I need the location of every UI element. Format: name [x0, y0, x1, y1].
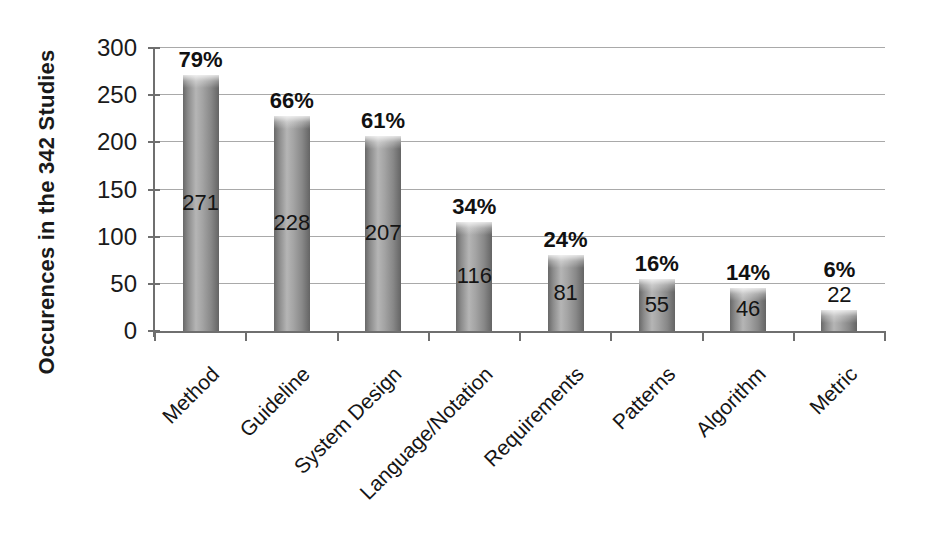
bar-chart-figure: Occurences in the 342 Studies 0501001502… [0, 0, 929, 552]
gridline [155, 47, 885, 48]
y-tick-label: 100 [79, 223, 137, 251]
x-tick-mark [793, 331, 795, 341]
plot-area: 05010015020025030027179%Method22866%Guid… [155, 48, 885, 331]
y-tick-label: 50 [79, 270, 137, 298]
bar-value-label: 46 [703, 296, 793, 322]
y-tick-label: 250 [79, 81, 137, 109]
x-tick-mark [519, 331, 521, 341]
x-tick-mark [610, 331, 612, 341]
x-category-label-text: Patterns [608, 362, 680, 434]
y-tick-mark [148, 236, 160, 238]
bar-percent-label: 79% [156, 47, 246, 72]
bar-value-label: 207 [338, 220, 428, 246]
bar-value-label: 22 [794, 282, 884, 308]
bar-value-label: 55 [612, 292, 702, 318]
y-tick-label: 150 [79, 176, 137, 204]
y-tick-mark [148, 283, 160, 285]
bar-percent-label: 16% [612, 251, 702, 276]
x-tick-mark [702, 331, 704, 341]
bar-value-label: 228 [247, 210, 337, 236]
y-tick-label: 200 [79, 128, 137, 156]
x-tick-mark [154, 331, 156, 341]
bar-percent-label: 61% [338, 108, 428, 133]
y-tick-label: 300 [79, 34, 137, 62]
x-tick-mark [428, 331, 430, 341]
bar-percent-label: 24% [521, 227, 611, 252]
bar-percent-label: 6% [794, 257, 884, 282]
x-category-label-text: Guideline [235, 362, 315, 442]
y-tick-label: 0 [79, 317, 137, 345]
x-tick-mark [884, 331, 886, 341]
gridline [155, 189, 885, 190]
x-category-label-text: Method [157, 362, 224, 429]
bar-percent-label: 66% [247, 88, 337, 113]
y-tick-mark [148, 94, 160, 96]
bar-value-label: 271 [156, 190, 246, 216]
bar-value-label: 116 [429, 263, 519, 289]
x-category-label-text: Algorithm [691, 362, 771, 442]
x-category-label-text: Metric [805, 362, 862, 419]
y-axis-title: Occurences in the 342 Studies [34, 50, 60, 375]
y-tick-mark [148, 141, 160, 143]
bar-percent-label: 34% [429, 194, 519, 219]
x-tick-mark [245, 331, 247, 341]
bar [821, 310, 857, 331]
x-tick-mark [337, 331, 339, 341]
gridline [155, 141, 885, 142]
bar-value-label: 81 [521, 280, 611, 306]
bar-percent-label: 14% [703, 260, 793, 285]
